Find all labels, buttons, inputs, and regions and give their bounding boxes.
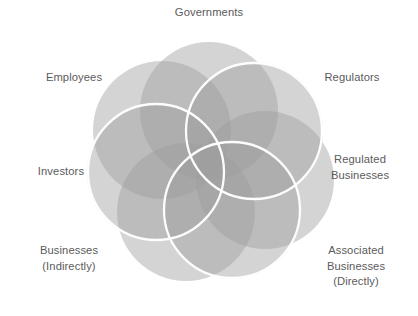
- label-regulated-businesses-line2: Businesses: [306, 168, 414, 184]
- label-regulated-businesses-line1: Regulated: [306, 152, 414, 168]
- venn-diagram-figure: Governments Employees Regulators Investo…: [0, 0, 418, 316]
- label-investors-line1: Investors: [6, 164, 116, 180]
- label-regulators: Regulators: [292, 70, 412, 86]
- label-investors: Investors: [6, 164, 116, 180]
- label-governments-line1: Governments: [0, 5, 418, 21]
- label-businesses-indirectly-line2: (Indirectly): [8, 259, 130, 275]
- label-businesses-indirectly: Businesses (Indirectly): [8, 243, 130, 274]
- label-employees-line1: Employees: [14, 70, 134, 86]
- label-associated-businesses: Associated Businesses (Directly): [298, 243, 414, 290]
- label-regulators-line1: Regulators: [292, 70, 412, 86]
- label-governments: Governments: [0, 5, 418, 21]
- label-regulated-businesses: Regulated Businesses: [306, 152, 414, 183]
- label-associated-businesses-line2: Businesses: [298, 259, 414, 275]
- label-associated-businesses-line3: (Directly): [298, 274, 414, 290]
- label-associated-businesses-line1: Associated: [298, 243, 414, 259]
- label-businesses-indirectly-line1: Businesses: [8, 243, 130, 259]
- label-employees: Employees: [14, 70, 134, 86]
